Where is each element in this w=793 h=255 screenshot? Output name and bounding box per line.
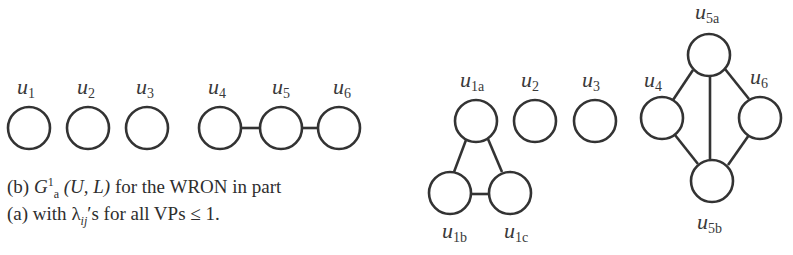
- label-u4: u4: [644, 67, 662, 94]
- node-u6: [318, 107, 360, 149]
- label-u2: u2: [77, 74, 95, 101]
- label-u4: u4: [208, 74, 226, 101]
- label-u1b: u1b: [442, 218, 467, 245]
- node-u1a: [455, 100, 497, 142]
- node-u6: [739, 97, 781, 139]
- label-u1c: u1c: [504, 218, 528, 245]
- node-u1c: [489, 172, 531, 214]
- label-u6: u6: [750, 64, 768, 91]
- node-u2: [67, 107, 109, 149]
- node-u5: [260, 107, 302, 149]
- edge-u1a-u1b: [454, 140, 466, 172]
- node-u3: [574, 100, 616, 142]
- edge-u5a-u6: [725, 69, 749, 99]
- label-u2: u2: [521, 67, 539, 94]
- edge-u5a-u4: [673, 70, 693, 100]
- label-u5a: u5a: [695, 0, 720, 26]
- label-u6: u6: [333, 74, 351, 101]
- node-u4: [199, 107, 241, 149]
- label-u3: u3: [582, 67, 600, 94]
- figure-b-caption: (b) G1a (U, L) for the WRON in part (a) …: [7, 172, 281, 231]
- node-u5b: [691, 160, 733, 202]
- node-u1b: [429, 172, 471, 214]
- edge-u4-u5b: [675, 135, 698, 164]
- label-u5b: u5b: [697, 209, 722, 236]
- label-u1a: u1a: [460, 67, 485, 94]
- edge-u6-u5b: [728, 135, 749, 165]
- caption-line-2: (a) with λij′s for all VPs ≤ 1.: [7, 204, 281, 231]
- node-u2: [514, 100, 556, 142]
- node-u4: [641, 97, 683, 139]
- label-u3: u3: [136, 74, 154, 101]
- edge-u1a-u1c: [488, 139, 502, 172]
- node-u5a: [688, 34, 730, 76]
- figure-c-nodes: [429, 34, 781, 214]
- label-u5: u5: [272, 74, 290, 101]
- figure-b-labels: u1 u2 u3 u4 u5 u6: [17, 74, 351, 101]
- caption-line-1: (b) G1a (U, L) for the WRON in part: [7, 172, 281, 204]
- node-u1: [8, 107, 50, 149]
- label-u1: u1: [17, 74, 35, 101]
- node-u3: [126, 107, 168, 149]
